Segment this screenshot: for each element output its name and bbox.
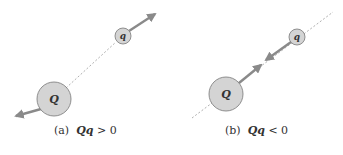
small-charge-label: q (120, 31, 126, 41)
panel-a: Q q (16, 14, 155, 116)
big-charge: Q (209, 77, 243, 111)
connecting-dashed-line (66, 42, 116, 88)
big-charge: Q (37, 82, 71, 116)
force-arrow-on-Q (16, 109, 41, 116)
caption-b: (b) Qq < 0 (225, 124, 288, 137)
force-arrow-on-Q (239, 65, 261, 83)
caption-relation: < 0 (268, 124, 288, 137)
force-arrow-on-q (129, 14, 155, 31)
caption-expression: Qq (76, 124, 93, 137)
caption-expression: Qq (248, 124, 265, 137)
big-charge-label: Q (221, 88, 231, 101)
big-charge-label: Q (49, 93, 59, 106)
caption-prefix: (a) (54, 124, 69, 137)
small-charge-label: q (294, 32, 300, 42)
force-arrow-on-q (266, 42, 291, 60)
caption-prefix: (b) (225, 124, 241, 137)
diagram-canvas: Q q Q q (0, 0, 343, 155)
caption-a: (a) Qq > 0 (54, 124, 117, 137)
small-charge: q (115, 28, 131, 44)
small-charge: q (289, 29, 305, 45)
caption-relation: > 0 (97, 124, 117, 137)
panel-b: Q q (192, 12, 333, 118)
